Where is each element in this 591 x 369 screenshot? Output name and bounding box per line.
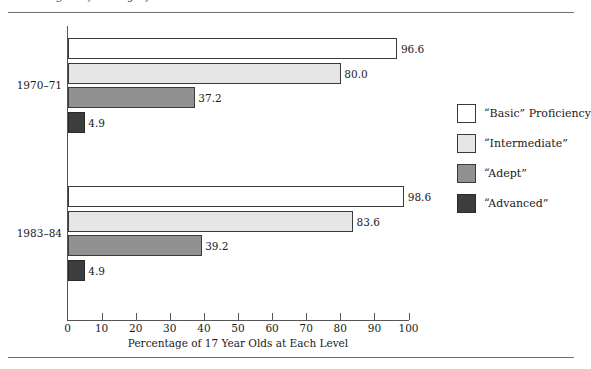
bar [68,186,404,207]
x-axis-tick [204,313,205,320]
legend-swatch-intermediate [457,134,476,153]
x-axis-tick [272,313,273,320]
bar [68,87,195,108]
bar [68,38,397,59]
bar-value-label: 4.9 [88,117,105,129]
legend-swatch-basic [457,104,476,123]
legend-label: “Advanced” [484,197,548,210]
bar [68,112,85,133]
legend-label: “Intermediate” [484,137,568,150]
x-axis-line [67,320,409,321]
bar-value-label: 83.6 [357,216,380,228]
legend-swatch-adept [457,164,476,183]
bar-value-label: 39.2 [205,240,228,252]
x-axis-title: Percentage of 17 Year Olds at Each Level [67,337,409,349]
bar-value-label: 80.0 [344,68,367,80]
legend-swatch-advanced [457,194,476,213]
bar-value-label: 96.6 [401,43,424,55]
x-axis-tick [170,313,171,320]
legend-label: “Adept” [484,167,527,180]
x-axis-tick-label: 100 [389,322,429,334]
bar [68,63,341,84]
legend-label: “Basic” Proficiency [484,107,591,120]
bar [68,260,85,281]
bar [68,211,353,232]
x-axis-tick [340,313,341,320]
category-label: 1983–84 [6,227,62,239]
x-axis-tick [136,313,137,320]
bar-value-label: 37.2 [198,92,221,104]
x-axis-tick [374,313,375,320]
x-axis-tick [238,313,239,320]
x-axis-tick [306,313,307,320]
bar [68,235,202,256]
bar-value-label: 4.9 [88,265,105,277]
x-axis-tick [102,313,103,320]
category-label: 1970–71 [6,79,62,91]
bar-value-label: 98.6 [408,191,431,203]
x-axis-tick [409,313,410,320]
